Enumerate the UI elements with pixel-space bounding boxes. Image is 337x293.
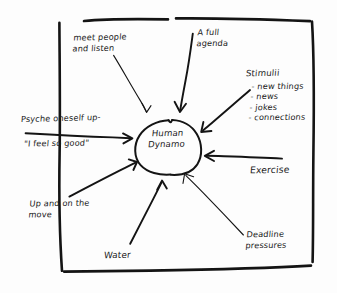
- arrow-stimulii-shaft: [203, 90, 250, 131]
- stimulii-item-jokes: - jokes: [249, 102, 278, 112]
- center-node-label: HumanDynamo: [138, 128, 196, 151]
- arrow-deadline-shaft: [186, 175, 244, 235]
- arrow-full-agenda: [175, 34, 193, 112]
- node-label-psyche-oneself-up: Psyche oneself up-: [20, 112, 101, 125]
- node-label-exercise: Exercise: [250, 165, 290, 176]
- stimulii-item-connections: - connections: [248, 112, 306, 122]
- node-label-psyche-quote: "I feel so good": [23, 138, 89, 149]
- arrow-deadline: [183, 174, 243, 235]
- circle-outline-top-dip: [169, 120, 173, 122]
- arrow-exercise: [205, 151, 282, 161]
- arrow-water: [130, 181, 167, 244]
- arrow-meet-people-shaft: [114, 55, 147, 111]
- center-node-label-line2: Dynamo: [147, 139, 185, 150]
- node-label-stimulii-title: Stimulii: [246, 68, 280, 79]
- node-label-meet-people: meet people and listen: [72, 31, 127, 54]
- node-label-full-agenda: A full agenda: [196, 27, 230, 49]
- arrow-exercise-shaft: [206, 156, 282, 159]
- node-label-up-and-on-the-move: Up and on the move: [28, 198, 90, 221]
- arrow-full-agenda-shaft: [180, 34, 193, 111]
- frame-right-edge: [312, 22, 314, 262]
- frame-top-left-segment: [84, 19, 168, 21]
- node-label-water: Water: [104, 250, 132, 261]
- center-node-label-line1: Human: [151, 128, 184, 139]
- frame-top-right-segment: [176, 18, 310, 21]
- arrow-water-shaft: [130, 183, 161, 244]
- arrow-up-and-move: [69, 159, 137, 196]
- arrow-up-and-move-shaft: [69, 163, 135, 197]
- node-label-stimulii-list: - new things- news- jokes- connections: [248, 81, 309, 123]
- arrow-water-head: [157, 181, 167, 190]
- arrow-meet-people: [114, 55, 151, 112]
- frame-bottom-edge: [64, 266, 311, 272]
- stimulii-item-new-things: - new things: [251, 81, 304, 91]
- node-label-deadline-pressures: Deadline pressures: [245, 229, 288, 252]
- stimulii-item-news: - news: [250, 91, 279, 101]
- arrow-stimulii: [201, 90, 250, 132]
- sketch-canvas: HumanDynamo meet people and listen A ful…: [0, 0, 337, 293]
